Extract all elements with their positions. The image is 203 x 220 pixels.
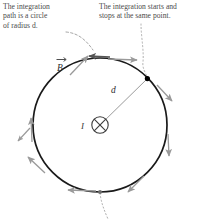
current-into-page-icon — [92, 117, 108, 133]
bottom-marker-dot — [98, 190, 102, 194]
b-field-arrow — [89, 56, 110, 57]
leader-line-left — [66, 32, 93, 50]
diagram-canvas: B d I — [0, 0, 203, 220]
start-stop-marker-dot — [145, 76, 150, 81]
radius-line — [100, 79, 147, 125]
physics-diagram-figure: The integration path is a circle of radi… — [0, 0, 203, 220]
b-field-arrow — [18, 128, 30, 141]
b-field-arrow — [31, 118, 32, 142]
leader-line-bottom — [100, 193, 108, 219]
radius-label: d — [111, 85, 116, 95]
b-field-label-group: B — [57, 58, 67, 73]
b-field-label: B — [57, 63, 63, 73]
current-label: I — [80, 121, 85, 131]
b-field-arrow — [70, 56, 88, 75]
b-field-arrow — [168, 134, 169, 156]
b-field-arrow — [68, 190, 96, 191]
leader-line-right — [141, 24, 148, 78]
